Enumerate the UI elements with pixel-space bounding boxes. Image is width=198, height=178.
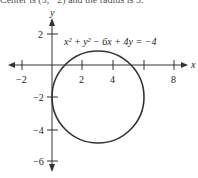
x-axis: −2 2 4 8 x — [8, 59, 196, 85]
y-tick-label: −4 — [33, 125, 44, 136]
y-axis-down-arrow-icon — [49, 164, 55, 172]
y-tick-label: 2 — [38, 29, 43, 40]
equation-label: x² + y² − 6x + 4y = −4 — [63, 36, 157, 47]
x-tick-label: 2 — [79, 74, 84, 85]
x-tick-label: −2 — [16, 74, 27, 85]
y-axis-up-arrow-icon — [49, 18, 55, 26]
y-tick-label: −2 — [33, 92, 44, 103]
x-axis-label: x — [190, 59, 196, 70]
x-tick-label: 8 — [171, 74, 176, 85]
x-axis-left-arrow-icon — [8, 62, 15, 68]
circle-graph: −2 2 4 8 x 2 −2 −4 −6 y x² + y² − 6x + 4… — [0, 0, 198, 178]
y-axis: 2 −2 −4 −6 y — [33, 7, 58, 172]
y-tick-label: −6 — [33, 156, 44, 167]
y-axis-label: y — [49, 7, 55, 18]
x-axis-right-arrow-icon — [181, 62, 188, 68]
x-tick-label: 4 — [110, 74, 115, 85]
